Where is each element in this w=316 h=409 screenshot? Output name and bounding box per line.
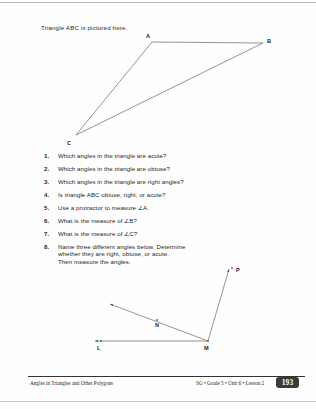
worksheet-page: Triangle ABC is pictured here. A B C 1. … [0, 0, 316, 409]
point-l-dot [100, 340, 102, 342]
point-p-dot [231, 267, 233, 269]
footer-lesson-title: Angles in Triangles and Other Polygons [30, 380, 113, 386]
vertex-label-b: B [267, 38, 271, 44]
question-item-2: 2. Which angles in the triangle are obtu… [44, 165, 274, 172]
ray-mp [208, 269, 229, 341]
question-text: What is the measure of ∠C? [58, 230, 274, 237]
question-text: Which angles in the triangle are right a… [58, 178, 274, 185]
question-number: 1. [44, 152, 55, 159]
question-number: 4. [44, 191, 55, 198]
point-label-p: P [236, 267, 240, 273]
point-label-n: N [155, 322, 159, 328]
angle-lmnp-figure [0, 238, 316, 363]
top-divider [0, 2, 316, 3]
bottom-divider [0, 401, 316, 402]
question-text: Use a protractor to measure ∠A. [58, 204, 274, 211]
question-item-1: 1. Which angles in the triangle are acut… [44, 152, 274, 159]
question-item-6: 6. What is the measure of ∠B? [44, 217, 274, 224]
point-n-dot [156, 319, 158, 321]
question-number: 7. [44, 230, 55, 237]
footer-divider [28, 376, 305, 377]
question-item-7: 7. What is the measure of ∠C? [44, 230, 274, 237]
question-item-5: 5. Use a protractor to measure ∠A. [44, 204, 274, 211]
question-text: Which angles in the triangle are obtuse? [58, 165, 274, 172]
triangle-abc-figure [0, 28, 316, 150]
vertex-label-a: A [146, 33, 150, 39]
question-number: 2. [44, 165, 55, 172]
question-text: What is the measure of ∠B? [58, 217, 274, 224]
question-text: Which angles in the triangle are acute? [58, 152, 274, 159]
question-number: 6. [44, 217, 55, 224]
question-item-3: 3. Which angles in the triangle are righ… [44, 178, 274, 185]
question-number: 5. [44, 204, 55, 211]
question-text: Is triangle ABC obtuse, right, or acute? [58, 191, 274, 198]
point-label-m: M [204, 345, 209, 351]
question-number: 3. [44, 178, 55, 185]
page-number-badge: 193 [276, 377, 299, 388]
footer-breadcrumb: SG • Grade 5 • Unit 6 • Lesson 2 [196, 380, 264, 386]
triangle-abc-outline [76, 42, 263, 135]
question-item-4: 4. Is triangle ABC obtuse, right, or acu… [44, 191, 274, 198]
point-m-dot [207, 340, 209, 342]
vertex-label-c: C [67, 140, 71, 146]
point-label-l: L [97, 345, 100, 351]
